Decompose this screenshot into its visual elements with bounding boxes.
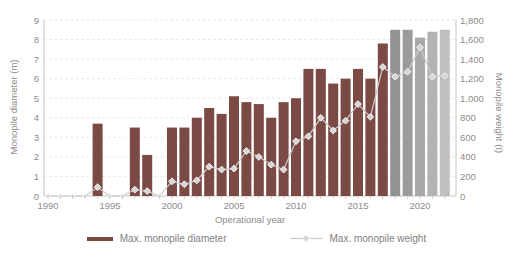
diameter-bar-2007 [254, 104, 264, 196]
left-axis-tick-label: 4 [34, 112, 39, 123]
diameter-bar-2009 [279, 102, 289, 196]
x-axis-title: Operational year [130, 214, 370, 225]
left-axis-tick-label: 9 [34, 15, 39, 26]
right-axis-title: Monopile weight (t) [493, 33, 505, 193]
right-axis-tick-label: 0 [460, 191, 465, 202]
diameter-legend-label: Max. monopile diameter [120, 233, 227, 244]
left-axis-title: Monopile diameter (m) [8, 27, 20, 187]
left-axis-tick-label: 7 [34, 54, 39, 65]
chart-legend: Max. monopile diameter Max. monopile wei… [0, 233, 513, 244]
diameter-bar-2012 [316, 69, 326, 196]
diameter-bar-2020 [415, 38, 425, 196]
weight-legend-label: Max. monopile weight [330, 233, 427, 244]
weight-line-swatch-icon [289, 234, 323, 243]
diameter-bar-2018 [390, 30, 400, 196]
right-axis-tick-label: 1,400 [460, 54, 484, 65]
diameter-bar-2003 [204, 108, 214, 196]
right-axis-tick-label: 1,600 [460, 34, 484, 45]
diameter-bar-2010 [291, 98, 301, 196]
diameter-bar-2013 [328, 84, 338, 196]
right-axis-tick-label: 1,000 [460, 93, 484, 104]
diameter-bar-2015 [353, 69, 363, 196]
diameter-bar-2014 [341, 79, 351, 196]
x-axis-tick-label: 2005 [223, 200, 244, 211]
legend-item-weight: Max. monopile weight [289, 233, 427, 244]
diameter-bar-2019 [403, 30, 413, 196]
left-axis-tick-label: 3 [34, 132, 39, 143]
x-axis-tick-label: 2010 [285, 200, 306, 211]
right-axis-tick-label: 600 [460, 132, 476, 143]
x-axis-tick-label: 2020 [409, 200, 430, 211]
diameter-bar-2021 [427, 32, 437, 196]
right-axis-tick-label: 1,200 [460, 73, 484, 84]
diameter-bar-2008 [266, 118, 276, 196]
right-axis-tick-label: 400 [460, 151, 476, 162]
left-axis-tick-label: 5 [34, 93, 39, 104]
diameter-bar-2016 [365, 79, 375, 196]
right-axis-tick-label: 800 [460, 112, 476, 123]
x-axis-tick-label: 2015 [347, 200, 368, 211]
left-axis-tick-label: 2 [34, 151, 39, 162]
diameter-bar-2004 [217, 114, 227, 196]
right-axis-tick-label: 200 [460, 171, 476, 182]
right-axis-tick-label: 1,800 [460, 15, 484, 26]
diameter-bar-swatch-icon [87, 237, 113, 241]
monopile-chart-figure: 012345678902004006008001,0001,2001,4001,… [0, 0, 513, 259]
left-axis-tick-label: 6 [34, 73, 39, 84]
diameter-bar-2022 [440, 30, 450, 196]
diameter-bar-2005 [229, 96, 239, 196]
left-axis-tick-label: 1 [34, 171, 39, 182]
left-axis-tick-label: 8 [34, 34, 39, 45]
x-axis-tick-label: 2000 [161, 200, 182, 211]
x-axis-tick-label: 1990 [37, 200, 58, 211]
x-axis-tick-label: 1995 [99, 200, 120, 211]
legend-item-diameter: Max. monopile diameter [87, 233, 227, 244]
